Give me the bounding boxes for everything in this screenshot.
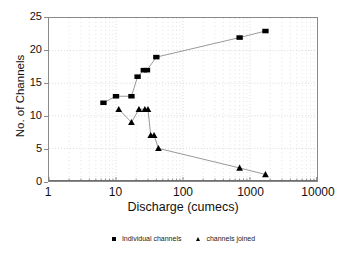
- y-axis-title-wrapper: No. of Channels: [8, 38, 22, 148]
- data-point-square: [144, 68, 150, 73]
- data-point-square: [100, 100, 106, 105]
- x-tick-label: 100: [153, 186, 213, 199]
- chart-legend: Individual channelschannels joined: [48, 234, 318, 243]
- y-axis-title: No. of Channels: [14, 36, 26, 156]
- data-point-triangle: [136, 106, 143, 112]
- legend-item: channels joined: [195, 234, 255, 243]
- x-tick-label: 10: [86, 186, 146, 199]
- x-tick-label: 10000: [288, 186, 348, 199]
- series-line: [119, 109, 266, 174]
- legend-triangle-icon: [195, 235, 203, 243]
- data-point-square: [113, 94, 119, 99]
- data-point-square: [153, 55, 159, 60]
- data-point-square: [128, 94, 134, 99]
- data-point-square: [262, 29, 268, 34]
- series-square: [100, 29, 268, 105]
- legend-label: channels joined: [206, 234, 255, 243]
- data-point-square: [134, 74, 140, 79]
- x-axis-title: Discharge (cumecs): [48, 200, 318, 214]
- x-tick-label: 1: [18, 186, 78, 199]
- legend-label: Individual channels: [122, 234, 182, 243]
- series-line: [103, 31, 265, 103]
- plot-area: [48, 17, 318, 182]
- data-point-triangle: [155, 145, 162, 151]
- x-tick-label: 1000: [221, 186, 281, 199]
- data-point-triangle: [115, 106, 122, 112]
- chart-figure: 0510152025 No. of Channels 1101001000100…: [0, 0, 349, 256]
- legend-item: Individual channels: [111, 234, 182, 243]
- data-point-square: [236, 35, 242, 40]
- legend-square-icon: [111, 235, 119, 243]
- y-tick-mark: [44, 182, 48, 183]
- y-tick-label: 25: [18, 11, 42, 22]
- data-series-layer: [49, 18, 317, 181]
- series-triangle: [115, 106, 268, 177]
